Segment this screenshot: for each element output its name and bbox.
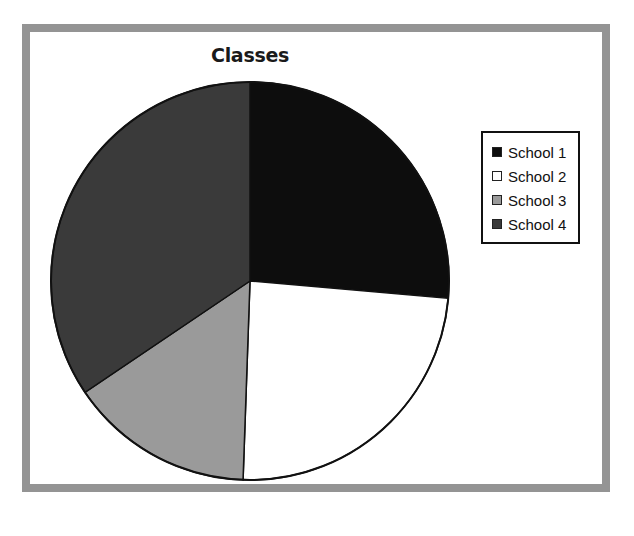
legend-item-school-3[interactable]: School 3 xyxy=(492,188,578,212)
legend-swatch-icon xyxy=(492,147,502,157)
legend-swatch-icon xyxy=(492,219,502,229)
pie-slice-school-2[interactable] xyxy=(243,281,448,480)
legend-item-school-4[interactable]: School 4 xyxy=(492,212,578,236)
legend-swatch-icon xyxy=(492,171,502,181)
legend-label: School 1 xyxy=(508,145,566,160)
pie-slice-school-1[interactable] xyxy=(250,82,449,298)
legend-label: School 2 xyxy=(508,169,566,184)
legend-label: School 4 xyxy=(508,217,566,232)
pie-chart-svg xyxy=(0,0,634,536)
legend-item-school-1[interactable]: School 1 xyxy=(492,140,578,164)
legend-label: School 3 xyxy=(508,193,566,208)
figure-canvas: Classes School 1 School 2 School 3 xyxy=(0,0,634,536)
pie-slices xyxy=(51,82,449,480)
legend-item-school-2[interactable]: School 2 xyxy=(492,164,578,188)
legend: School 1 School 2 School 3 School 4 xyxy=(481,131,580,244)
plot-area: Classes School 1 School 2 School 3 xyxy=(0,0,634,536)
legend-swatch-icon xyxy=(492,195,502,205)
